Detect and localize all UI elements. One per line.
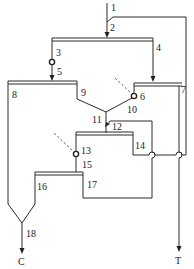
distributor: [52, 38, 156, 82]
label-10: 10: [127, 104, 137, 115]
label-16: 16: [37, 181, 47, 192]
concentrate-arrow-icon: [20, 248, 25, 254]
cell-13-14: [76, 132, 186, 155]
tailings-label: T: [175, 255, 181, 266]
label-11: 11: [92, 114, 102, 125]
label-6: 6: [140, 91, 145, 102]
label-2: 2: [110, 22, 115, 33]
arrow-icon: [105, 32, 110, 38]
pump-3: [49, 59, 54, 81]
label-5: 5: [57, 66, 62, 77]
label-14: 14: [135, 140, 145, 151]
label-18: 18: [26, 228, 36, 239]
concentrate-label: C: [18, 256, 25, 267]
label-4: 4: [156, 42, 161, 53]
cell-6-7: [134, 83, 182, 252]
label-8: 8: [12, 89, 17, 100]
label-15: 15: [82, 159, 92, 170]
pump-13: [54, 133, 79, 172]
label-17: 17: [87, 179, 97, 190]
label-7: 7: [181, 84, 186, 95]
flowsheet-diagram: 1 2 3 4 5 6 7 8 9 10 11 12 13 14 15 16 1…: [0, 0, 194, 269]
label-12: 12: [112, 121, 122, 132]
label-13: 13: [81, 145, 91, 156]
label-3: 3: [56, 47, 61, 58]
tailings-arrow-icon: [177, 246, 182, 252]
label-1: 1: [111, 2, 116, 13]
label-9: 9: [81, 87, 86, 98]
